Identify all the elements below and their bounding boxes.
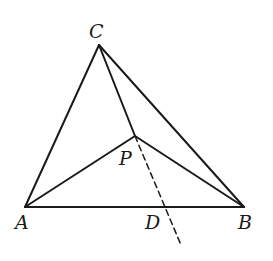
diagram-svg: C P A D B: [0, 0, 273, 261]
label-b: B: [237, 211, 252, 233]
segment-cb: [99, 45, 244, 207]
label-a: A: [13, 211, 29, 233]
segment-cp: [99, 45, 135, 136]
label-c: C: [89, 20, 104, 42]
label-p: P: [118, 147, 133, 169]
label-d: D: [144, 211, 160, 233]
geometry-diagram: C P A D B: [0, 0, 273, 261]
